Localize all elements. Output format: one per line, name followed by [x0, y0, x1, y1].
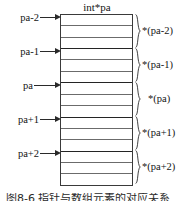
pointer-label-pa-plus-1: pa+1 [40, 114, 60, 126]
deref-label-pa-minus-2: *(pa-2) [142, 25, 173, 37]
pointer-label-text: pa+1 [18, 114, 40, 126]
group-brace [135, 82, 141, 116]
memory-cell [61, 83, 132, 95]
memory-cell [61, 140, 132, 152]
deref-label-pa-minus-1: *(pa-1) [142, 59, 173, 71]
deref-label-pa: *(pa) [148, 93, 170, 105]
pointer-array-diagram: int*pa pa-2 pa-1 pa [0, 0, 190, 201]
memory-cell [61, 95, 132, 106]
deref-label-pa-plus-2: *(pa+2) [142, 161, 175, 173]
pointer-arrow [40, 114, 60, 126]
memory-cell [61, 129, 132, 140]
memory-cell [61, 72, 132, 83]
memory-cell [61, 38, 132, 49]
group-brace [135, 116, 141, 150]
memory-cell [61, 15, 132, 26]
memory-cell [61, 49, 132, 60]
memory-cell [61, 26, 132, 38]
memory-cell [61, 174, 132, 185]
pointer-label-pa-minus-2: pa-2 [40, 12, 60, 24]
pointer-arrow [40, 46, 60, 58]
pointer-label-text: pa-1 [20, 46, 40, 58]
pointer-label-text: pa-2 [20, 12, 40, 24]
group-brace [135, 48, 141, 82]
pointer-arrow [40, 12, 60, 24]
memory-cell [61, 60, 132, 72]
pointer-label-pa-minus-1: pa-1 [40, 46, 60, 58]
deref-label-pa-plus-1: *(pa+1) [142, 127, 175, 139]
pointer-label-pa: pa [34, 80, 60, 92]
pointer-label-pa-plus-2: pa+2 [40, 148, 60, 160]
pointer-label-text: pa+2 [18, 148, 40, 160]
group-brace [135, 150, 141, 184]
diagram-title: int*pa [60, 1, 134, 13]
memory-cell [61, 163, 132, 174]
memory-cell [61, 118, 132, 129]
memory-cell [61, 152, 132, 163]
pointer-arrow [34, 80, 60, 92]
memory-block [60, 14, 133, 186]
pointer-label-text: pa [23, 80, 34, 92]
memory-cell [61, 106, 132, 118]
pointer-arrow [40, 148, 60, 160]
figure-caption: 图8-6 指针与数组元素的对应关系 [6, 193, 190, 201]
group-brace [135, 14, 141, 48]
